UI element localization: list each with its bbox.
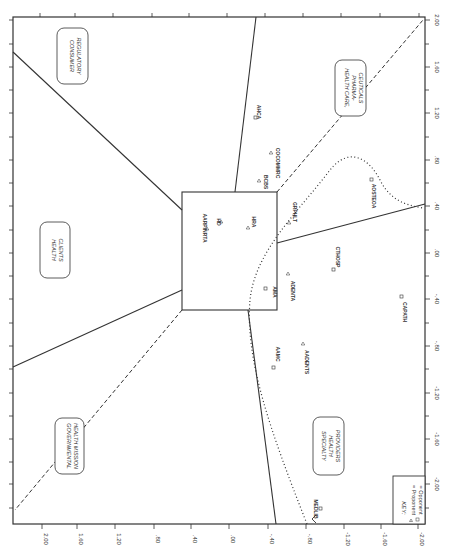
square-icon — [272, 366, 275, 369]
square-icon — [332, 268, 335, 271]
right-tick-label: .40 — [434, 202, 440, 211]
right-axis-labels: 2.00 1.60 1.20 .80 .40 .00 -.40 -.80 -1.… — [434, 14, 440, 491]
bottom-tick-label: -2.00 — [419, 532, 425, 546]
region-health-care-pharma: HEALTH CARE, PHARMA- CEUTICALS — [335, 60, 366, 116]
svg-text:CONSUMER: CONSUMER — [69, 40, 75, 72]
point-ama: AMA — [264, 286, 278, 298]
point-aosteoa: AOSTEOA — [370, 178, 377, 209]
region-health-clients: HEALTH CLIENTS — [40, 222, 70, 278]
rotated-scatter-diagram: 2.00 1.60 1.20 .80 .40 .00 -.40 -.80 -1.… — [0, 0, 453, 550]
legend-title: KEY: — [401, 501, 407, 515]
point-bcbs: BCBS — [257, 175, 269, 190]
bottom-tick-label: 1.20 — [116, 533, 122, 545]
svg-text:AAMC: AAMC — [275, 347, 281, 362]
bottom-tick-label: 2.00 — [43, 533, 49, 545]
bottom-tick-label: -1.20 — [345, 532, 351, 546]
right-tick-label: -.80 — [434, 341, 440, 352]
svg-text:PROVIDERS: PROVIDERS — [335, 430, 341, 463]
square-icon — [400, 295, 403, 298]
triangle-icon — [287, 221, 291, 224]
right-tick-label: -1.60 — [434, 432, 440, 446]
point-cthosp: CTHOSP — [332, 247, 341, 271]
bottom-tick-label: .00 — [230, 535, 236, 544]
svg-text:REGULATORY: REGULATORY — [76, 37, 82, 75]
right-tick-label: .80 — [434, 156, 440, 165]
point-hra: HRA — [246, 217, 257, 229]
point-capath: CAPATH — [400, 295, 408, 322]
triangle-icon — [269, 151, 273, 154]
svg-text:PHARMA-: PHARMA- — [351, 75, 357, 101]
svg-text:AADENTS: AADENTS — [304, 350, 310, 375]
right-axis-ticks — [425, 20, 430, 508]
triangle-icon — [286, 272, 290, 275]
svg-text:SPECIALTY: SPECIALTY — [321, 431, 327, 461]
data-points: AHCA COCOMMRC BCBS AARP/NRTA HD HRA — [202, 105, 408, 523]
svg-text:AMA: AMA — [272, 286, 278, 298]
right-tick-label: -2.00 — [434, 477, 440, 491]
point-ahca: AHCA — [254, 105, 262, 120]
svg-text:HRA: HRA — [251, 217, 257, 228]
svg-text:GOVERNMENTAL: GOVERNMENTAL — [66, 423, 72, 469]
point-hd: HD — [216, 218, 223, 226]
legend-opponent: = Opponent — [418, 486, 424, 515]
point-adenta: ADENTA — [286, 272, 296, 302]
svg-text:GRPHLT: GRPHLT — [292, 202, 298, 222]
legend-proponent: = Proponent — [411, 485, 417, 516]
svg-text:AARP/NRTA: AARP/NRTA — [202, 213, 208, 242]
bottom-tick-label: -1.60 — [382, 532, 388, 546]
svg-text:HEALTH CARE,: HEALTH CARE, — [344, 68, 350, 108]
bottom-axis-ticks — [42, 524, 418, 529]
region-specialty-health-providers: SPECIALTY HEALTH PROVIDERS — [313, 417, 344, 475]
square-icon — [370, 178, 373, 181]
point-aamc: AAMC — [272, 347, 281, 370]
bottom-axis-labels: 2.00 1.60 1.20 .80 .40 .00 -.40 -.80 -1.… — [43, 532, 425, 546]
bottom-tick-label: 1.60 — [78, 533, 84, 545]
svg-text:BCBS: BCBS — [263, 175, 269, 190]
right-tick-label: 1.60 — [434, 61, 440, 73]
svg-text:CTHOSP: CTHOSP — [335, 247, 341, 269]
region-consumer-regulatory: CONSUMER REGULATORY — [57, 28, 88, 84]
legend-key: KEY: = Proponent = Opponent — [393, 476, 425, 524]
svg-text:HEALTH: HEALTH — [51, 239, 57, 260]
svg-text:CEUTICALS: CEUTICALS — [358, 73, 364, 104]
triangle-icon — [246, 226, 250, 229]
point-medlib: MEDLIB — [312, 499, 322, 523]
svg-text:HEALTH: HEALTH — [328, 435, 334, 456]
bottom-tick-label: .80 — [155, 535, 161, 544]
svg-text:CLIENTS: CLIENTS — [58, 238, 64, 262]
right-tick-label: 2.00 — [434, 14, 440, 26]
right-tick-label: .00 — [434, 249, 440, 258]
point-aarp-nrta: AARP/NRTA — [202, 213, 209, 242]
svg-text:ADENTA: ADENTA — [290, 281, 296, 302]
bottom-tick-label: .40 — [192, 535, 198, 544]
right-tick-label: -.40 — [434, 294, 440, 305]
svg-text:CAPATH: CAPATH — [402, 302, 408, 322]
central-box — [182, 192, 277, 310]
square-icon — [264, 287, 267, 290]
bottom-tick-label: -.40 — [269, 534, 275, 545]
triangle-icon — [257, 179, 261, 182]
bottom-tick-label: -.80 — [307, 534, 313, 545]
point-aadents: AADENTS — [301, 342, 310, 375]
point-cocommrc: COCOMMRC — [269, 148, 281, 179]
svg-text:AHCA: AHCA — [256, 105, 262, 120]
right-tick-label: 1.20 — [434, 107, 440, 119]
svg-text:AOSTEOA: AOSTEOA — [371, 184, 377, 209]
svg-text:COCOMMRC: COCOMMRC — [275, 148, 281, 179]
svg-text:MEDLIB: MEDLIB — [313, 499, 319, 519]
svg-text:HEALTH MISSION: HEALTH MISSION — [73, 423, 79, 469]
triangle-icon — [301, 342, 305, 345]
right-tick-label: -1.20 — [434, 386, 440, 400]
svg-text:HD: HD — [216, 218, 222, 226]
region-governmental-health-mission: GOVERNMENTAL HEALTH MISSION — [55, 418, 84, 474]
